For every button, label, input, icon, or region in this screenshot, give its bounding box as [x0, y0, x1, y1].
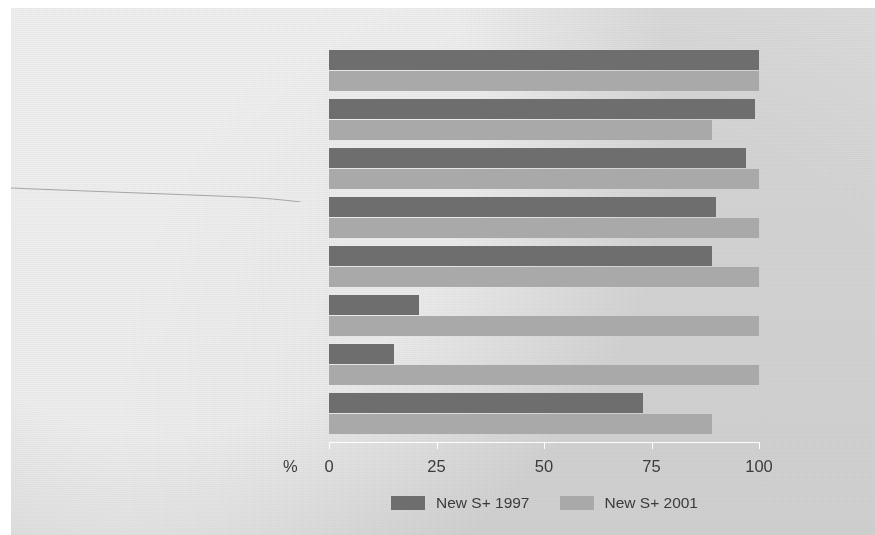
- x-axis-tick: [544, 442, 545, 449]
- chart-page: Cambodia Lao PDR Viet Nam China Mongolia…: [0, 0, 875, 535]
- bar-2001: [329, 365, 759, 385]
- bar-1997: [329, 295, 419, 315]
- x-axis-tick: [329, 442, 330, 449]
- x-axis-tick-label: 100: [745, 457, 773, 476]
- legend-label-1997: New S+ 1997: [436, 494, 530, 512]
- scanned-page-surface: Cambodia Lao PDR Viet Nam China Mongolia…: [11, 8, 875, 535]
- bar-1997: [329, 344, 394, 364]
- bar-1997: [329, 50, 759, 70]
- bar-2001: [329, 169, 759, 189]
- bar-2001: [329, 316, 759, 336]
- x-axis-tick-label: 50: [535, 457, 553, 476]
- bar-2001: [329, 218, 759, 238]
- legend-label-2001: New S+ 2001: [605, 494, 699, 512]
- bar-2001: [329, 120, 712, 140]
- x-axis-tick-label: 0: [324, 457, 333, 476]
- bar-1997: [329, 99, 755, 119]
- bar-2001: [329, 414, 712, 434]
- legend-swatch-2001: [560, 496, 594, 510]
- x-axis-tick: [759, 442, 760, 449]
- scanner-scratch-artifact: [11, 184, 301, 202]
- x-axis-line: [329, 442, 759, 443]
- chart-legend: New S+ 1997 New S+ 2001: [391, 494, 698, 512]
- bar-1997: [329, 393, 643, 413]
- percent-axis-label: %: [283, 457, 298, 476]
- bar-1997: [329, 197, 716, 217]
- x-axis-tick: [652, 442, 653, 449]
- bar-1997: [329, 148, 746, 168]
- bar-2001: [329, 71, 759, 91]
- bar-2001: [329, 267, 759, 287]
- bar-1997: [329, 246, 712, 266]
- x-axis-tick-label: 25: [427, 457, 445, 476]
- legend-item-1997: New S+ 1997: [391, 494, 530, 512]
- x-axis-tick-label: 75: [642, 457, 660, 476]
- legend-item-2001: New S+ 2001: [560, 494, 699, 512]
- x-axis-tick: [437, 442, 438, 449]
- legend-swatch-1997: [391, 496, 425, 510]
- plot-area: [329, 50, 759, 448]
